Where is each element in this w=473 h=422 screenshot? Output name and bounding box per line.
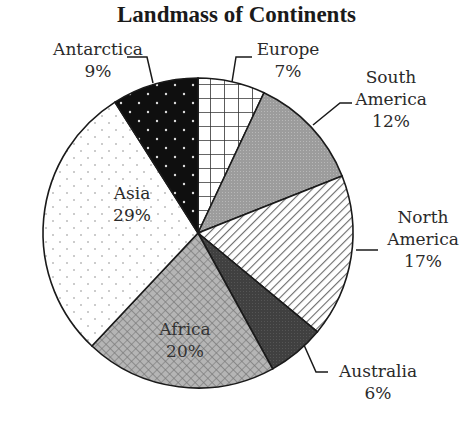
label-asia: Asia29%: [92, 182, 172, 226]
leader-australia: [304, 345, 328, 372]
label-north-america: NorthAmerica17%: [378, 206, 468, 272]
label-south-america: SouthAmerica12%: [346, 66, 436, 132]
label-europe: Europe7%: [248, 38, 328, 82]
label-australia: Australia6%: [328, 360, 428, 404]
label-antarctica: Antarctica9%: [48, 38, 148, 82]
label-africa: Africa20%: [140, 318, 230, 362]
